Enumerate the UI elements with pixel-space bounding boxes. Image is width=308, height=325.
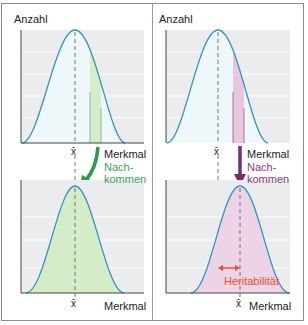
offspring-label-left-line1: Nach-: [104, 161, 133, 173]
plot-offspring-left: [21, 180, 144, 297]
mean-symbol-top-left: x̄: [71, 146, 76, 158]
x-axis-label-bottom-left: Merkmal: [104, 300, 146, 312]
y-axis-label-left: Anzahl: [14, 13, 48, 25]
mean-symbol-bottom-left: x̄: [71, 298, 76, 310]
offspring-label-left-line2: kommen: [104, 173, 146, 185]
mean-symbol-bottom-right: x̄: [236, 298, 241, 310]
offspring-label-right-line1: Nach-: [247, 161, 276, 173]
x-axis-label-top-right: Merkmal: [247, 148, 289, 160]
heritability-label: Heritabilität: [224, 275, 279, 287]
x-axis-label-top-left: Merkmal: [104, 148, 146, 160]
mean-symbol-top-right: x̄: [214, 146, 219, 158]
x-axis-label-bottom-right: Merkmal: [249, 300, 291, 312]
y-axis-label-right: Anzahl: [159, 13, 193, 25]
offspring-label-right-line2: kommen: [247, 173, 289, 185]
